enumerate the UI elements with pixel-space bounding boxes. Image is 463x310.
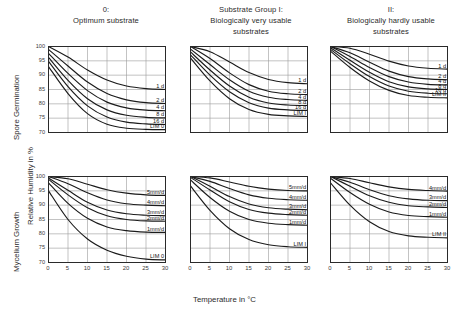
curve-label-1-d: 1 d <box>156 83 164 89</box>
curve-label-5-mm-d: 5mm/d <box>147 189 164 195</box>
curve-label-1-mm-d: 1mm/d <box>147 226 164 232</box>
plot-area: 1 d2 d4 d8 d16 dLIM I <box>190 46 308 133</box>
y-tick-label: 100 <box>31 173 45 179</box>
x-tick-label: 30 <box>159 265 171 271</box>
curve-label-8-d: 8 d <box>156 111 164 117</box>
y-tick-label: 100 <box>31 43 45 49</box>
y-axis-caption: Relative Humidity in % <box>26 147 35 225</box>
x-tick-label: 25 <box>140 265 152 271</box>
x-tick-label: 0 <box>184 265 196 271</box>
x-tick-label: 15 <box>101 265 113 271</box>
x-tick-label: 25 <box>422 265 434 271</box>
column-title-1-line1: Substrate Group I: <box>176 4 326 15</box>
y-tick-label: 75 <box>31 244 45 250</box>
curve-label-lim-i: LIM I <box>294 241 307 247</box>
x-tick-label: 5 <box>344 265 356 271</box>
x-tick-label: 20 <box>120 265 132 271</box>
x-tick-label: 25 <box>282 265 294 271</box>
row-label-mycelium-growth: Mycelium Growth <box>12 212 21 272</box>
curve-label-lim-0: LIM 0 <box>150 123 164 129</box>
curve-label-lim-0: LIM 0 <box>150 253 164 259</box>
y-tick-label: 90 <box>31 201 45 207</box>
panel-bottom-left: 5mm/d4mm/d3mm/d2mm/d1mm/dLIM 0 <box>48 176 166 263</box>
column-title-0-line1: 0: <box>36 4 176 15</box>
y-tick-label: 80 <box>31 100 45 106</box>
plot-area: 5mm/d4mm/d3mm/d2mm/d1mm/dLIM I <box>190 176 308 263</box>
column-title-2-line2: Biologically hardly usable <box>320 15 462 26</box>
plot-area: 5mm/d4mm/d3mm/d2mm/d1mm/dLIM 0 <box>48 176 166 263</box>
column-title-2-line3: substrates <box>320 26 462 37</box>
curve-label-lim-ii: LIM II <box>432 91 446 97</box>
x-tick-label: 20 <box>402 265 414 271</box>
plot-area: 4mm/d3mm/d2mm/d1mm/dLIM II <box>330 176 448 263</box>
x-tick-label: 5 <box>204 265 216 271</box>
column-title-2: II: Biologically hardly usable substrate… <box>320 4 462 37</box>
panel-top-right: 1 d2 d4 d8 d16 dLIM II <box>330 46 448 133</box>
y-tick-label: 75 <box>31 114 45 120</box>
curve-label-1-d: 1 d <box>298 77 306 83</box>
panel-top-center: 1 d2 d4 d8 d16 dLIM I <box>190 46 308 133</box>
y-tick-label: 95 <box>31 57 45 63</box>
x-tick-label: 30 <box>441 265 453 271</box>
curve-label-2-mm-d: 2mm/d <box>289 209 306 215</box>
curve-label-lim-ii: LIM II <box>432 231 446 237</box>
curve-label-2-d: 2 d <box>156 97 164 103</box>
column-title-0-line2: Optimum substrate <box>36 15 176 26</box>
curve-label-2-mm-d: 2mm/d <box>429 201 446 207</box>
curve-label-1-d: 1 d <box>438 63 446 69</box>
curve-label-1-mm-d: 1mm/d <box>289 219 306 225</box>
panel-bottom-center: 5mm/d4mm/d3mm/d2mm/d1mm/dLIM I <box>190 176 308 263</box>
y-tick-label: 85 <box>31 86 45 92</box>
x-tick-label: 15 <box>383 265 395 271</box>
x-tick-label: 15 <box>243 265 255 271</box>
panel-top-left: 1 d2 d4 d8 d16 dLIM 0 <box>48 46 166 133</box>
x-tick-label: 0 <box>324 265 336 271</box>
gridlines <box>49 47 166 133</box>
panel-bottom-right: 4mm/d3mm/d2mm/d1mm/dLIM II <box>330 176 448 263</box>
x-axis-caption: Temperature in °C <box>193 295 256 304</box>
plot-area: 1 d2 d4 d8 d16 dLIM 0 <box>48 46 166 133</box>
x-tick-label: 20 <box>262 265 274 271</box>
row-label-spore-germination: Spore Germination <box>12 75 21 140</box>
column-title-2-line1: II: <box>320 4 462 15</box>
gridlines <box>191 47 308 133</box>
column-title-1: Substrate Group I: Biologically very usa… <box>176 4 326 37</box>
y-tick-label: 90 <box>31 71 45 77</box>
mould-growth-isopleth-figure: 0: Optimum substrate Substrate Group I: … <box>0 0 463 310</box>
curve-label-lim-i: LIM I <box>294 110 307 116</box>
y-tick-label: 85 <box>31 216 45 222</box>
y-tick-label: 70 <box>31 129 45 135</box>
curve-label-4-d: 4 d <box>156 104 164 110</box>
curve-label-2-mm-d: 2mm/d <box>147 215 164 221</box>
x-tick-label: 10 <box>223 265 235 271</box>
column-title-1-line3: substrates <box>176 26 326 37</box>
curve-label-3-mm-d: 3mm/d <box>429 194 446 200</box>
x-tick-label: 30 <box>301 265 313 271</box>
curve-label-4-mm-d: 4mm/d <box>147 199 164 205</box>
curve-label-4-mm-d: 4mm/d <box>289 194 306 200</box>
curve-label-1-mm-d: 1mm/d <box>429 211 446 217</box>
x-tick-label: 10 <box>363 265 375 271</box>
curve-label-5-mm-d: 5mm/d <box>289 184 306 190</box>
y-tick-label: 95 <box>31 187 45 193</box>
y-tick-label: 70 <box>31 259 45 265</box>
x-tick-label: 10 <box>81 265 93 271</box>
x-tick-label: 0 <box>42 265 54 271</box>
x-tick-label: 5 <box>62 265 74 271</box>
y-tick-label: 80 <box>31 230 45 236</box>
curve-label-4-mm-d: 4mm/d <box>429 185 446 191</box>
column-title-1-line2: Biologically very usable <box>176 15 326 26</box>
plot-area: 1 d2 d4 d8 d16 dLIM II <box>330 46 448 133</box>
column-title-0: 0: Optimum substrate <box>36 4 176 26</box>
